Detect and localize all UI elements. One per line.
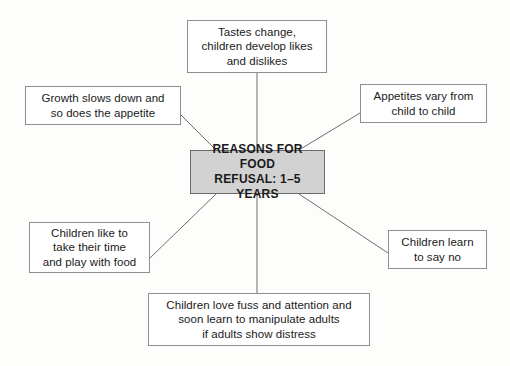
branch-node-right-bottom-label: Children learn to say no xyxy=(396,235,478,263)
branch-node-top-label: Tastes change, children develop likes an… xyxy=(196,25,317,68)
center-node: REASONS FOR FOOD REFUSAL: 1–5 YEARS xyxy=(190,150,325,194)
branch-node-left-top-label: Growth slows down and so does the appeti… xyxy=(36,91,169,119)
branch-node-bottom-label: Children love fuss and attention and soo… xyxy=(161,298,356,341)
connector-left-bottom xyxy=(150,194,216,258)
branch-node-bottom: Children love fuss and attention and soo… xyxy=(148,293,370,346)
center-node-label: REASONS FOR FOOD REFUSAL: 1–5 YEARS xyxy=(191,142,324,202)
branch-node-right-bottom: Children learn to say no xyxy=(388,230,487,269)
branch-node-right-top: Appetites vary from child to child xyxy=(360,84,487,123)
branch-node-left-bottom-label: Children like to take their time and pla… xyxy=(38,226,142,269)
branch-node-top: Tastes change, children develop likes an… xyxy=(187,20,327,73)
diagram-canvas: Tastes change, children develop likes an… xyxy=(0,0,510,366)
branch-node-left-bottom: Children like to take their time and pla… xyxy=(29,222,150,273)
connector-right-bottom xyxy=(299,194,388,253)
branch-node-left-top: Growth slows down and so does the appeti… xyxy=(25,86,181,125)
branch-node-right-top-label: Appetites vary from child to child xyxy=(368,89,478,117)
